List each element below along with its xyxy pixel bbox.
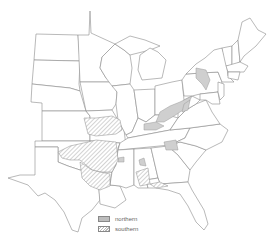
legend-item-southern: southern	[98, 225, 138, 233]
kansas	[42, 111, 90, 141]
legend-item-northern: northern	[98, 215, 138, 223]
state-map	[0, 0, 269, 245]
northern-region-nc	[164, 140, 178, 150]
northern-swatch-icon	[98, 216, 110, 222]
southern-region-mo	[84, 116, 122, 136]
legend: northern southern	[98, 215, 138, 235]
michigan-lp	[138, 48, 166, 80]
legend-label-southern: southern	[115, 226, 138, 232]
legend-label-northern: northern	[115, 216, 137, 222]
north-dakota	[34, 34, 80, 61]
northern-region-ms	[118, 157, 124, 162]
southern-swatch-icon	[98, 226, 110, 232]
maine	[238, 18, 266, 62]
map: northern southern	[0, 0, 269, 245]
iowa	[80, 82, 117, 111]
